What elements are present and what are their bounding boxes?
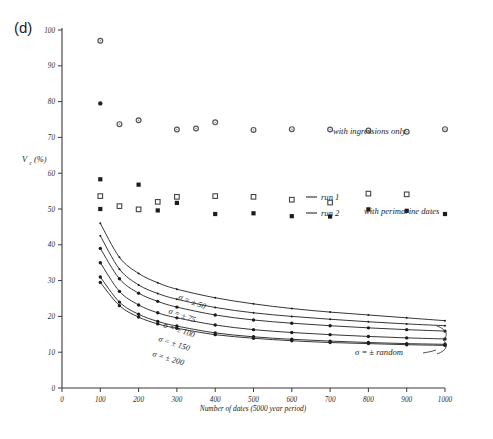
x-tick-label: 900 (401, 396, 412, 404)
point-ingressions-run1-core (444, 128, 445, 129)
annotation-with-ingressions-only: with ingressions only (333, 126, 406, 136)
point-sigma-100-curve (290, 322, 293, 325)
point-sigma-50-curve (99, 222, 101, 224)
point-ingressions-run1-core (329, 129, 330, 130)
point-ingressions-run1-core (215, 122, 216, 123)
figure-panel-d: 0102030405060708090100010020030040050060… (0, 0, 493, 439)
point-perimarine-run1 (366, 191, 371, 196)
point-perimarine-run2 (213, 212, 217, 216)
point-sigma-150-curve (252, 328, 255, 331)
point-ingressions-run1-core (138, 120, 139, 121)
x-tick-label: 1000 (438, 396, 453, 404)
point-sigma-150-curve (156, 311, 159, 314)
point-sigma-50-curve (176, 288, 178, 290)
point-sigma-50-curve (253, 303, 255, 305)
point-ingressions-run1-core (291, 128, 292, 129)
point-sigma-200-curve (118, 300, 121, 303)
point-perimarine-run1 (213, 194, 218, 199)
point-perimarine-run1 (155, 200, 160, 205)
curves (100, 223, 445, 345)
point-sigma-50-curve (118, 256, 120, 258)
point-sigma-random-curve (99, 281, 102, 284)
point-sigma-150-curve (290, 331, 293, 334)
point-perimarine-run2 (251, 211, 255, 215)
point-sigma-random-curve (137, 315, 140, 318)
point-sigma-150-curve (328, 333, 331, 336)
point-sigma-75-curve (406, 323, 408, 325)
curve-sigma-50-curve (100, 223, 445, 320)
series-ingressions-run2 (98, 101, 102, 105)
annotation-sigma-random: σ = ± random (355, 347, 403, 357)
point-ingressions-run2 (98, 101, 102, 105)
y-tick-label: 100 (44, 27, 55, 35)
curve-sigma-150-curve (100, 263, 445, 339)
legend: run 1run 2 (306, 192, 340, 218)
point-ingressions-run1-core (100, 40, 101, 41)
point-sigma-75-curve (138, 284, 140, 286)
point-sigma-50-curve (291, 308, 293, 310)
series-ingressions-run1 (98, 38, 448, 134)
point-perimarine-run1 (136, 207, 141, 212)
point-sigma-150-curve (405, 336, 408, 339)
point-sigma-50-curve (157, 282, 159, 284)
curve-sigma-100-curve (100, 248, 445, 331)
x-tick-label: 100 (95, 396, 106, 404)
point-sigma-random-curve (405, 343, 408, 346)
x-tick-label: 0 (60, 396, 64, 404)
point-sigma-100-curve (367, 326, 370, 329)
series-sigma-100-curve (99, 247, 447, 333)
point-sigma-50-curve (138, 272, 140, 274)
point-perimarine-run1 (290, 197, 295, 202)
point-sigma-100-curve (156, 300, 159, 303)
point-perimarine-run1 (98, 194, 103, 199)
point-sigma-75-curve (118, 268, 120, 270)
x-tick-label: 800 (363, 396, 374, 404)
point-perimarine-run2 (98, 207, 102, 211)
random-brace-leader (423, 350, 436, 353)
y-tick-label: 0 (51, 385, 55, 393)
x-tick-label: 300 (171, 396, 183, 404)
point-ingressions-run1-core (119, 123, 120, 124)
point-sigma-random-curve (214, 333, 217, 336)
point-sigma-200-curve (99, 275, 102, 278)
point-ingressions-run1-core (253, 129, 254, 130)
curve-label-sigma-150: σ = ± 150 (157, 334, 191, 353)
point-sigma-50-curve (406, 317, 408, 319)
point-perimarine-run1 (117, 204, 122, 209)
panel-label: (d) (14, 19, 32, 36)
x-axis-title: Number of dates (5000 year period) (199, 404, 307, 413)
point-sigma-50-curve (367, 314, 369, 316)
point-perimarine-run1 (404, 192, 409, 197)
point-sigma-150-curve (118, 290, 121, 293)
y-axis-title-subscript: c (30, 160, 33, 166)
point-sigma-100-curve (137, 291, 140, 294)
point-sigma-75-curve (329, 318, 331, 320)
y-tick-label: 50 (48, 206, 56, 214)
point-perimarine-run2 (290, 214, 294, 218)
point-perimarine-run2 (98, 177, 102, 181)
x-tick-label: 700 (325, 396, 336, 404)
point-sigma-75-curve (214, 306, 216, 308)
x-tick-label: 500 (248, 396, 259, 404)
x-tick-label: 200 (133, 396, 144, 404)
point-sigma-100-curve (99, 247, 102, 250)
point-sigma-150-curve (99, 261, 102, 264)
x-tick-label: 600 (286, 396, 297, 404)
point-ingressions-run1-core (406, 131, 407, 132)
annotation-with-perimarine-dates: with perimarine dates (364, 206, 440, 216)
point-sigma-150-curve (137, 303, 140, 306)
y-tick-label: 60 (48, 170, 56, 178)
point-sigma-150-curve (367, 335, 370, 338)
legend-label-run-1: run 1 (321, 192, 339, 202)
y-tick-label: 80 (48, 98, 56, 106)
y-tick-label: 10 (48, 349, 56, 357)
point-sigma-random-curve (156, 322, 159, 325)
chart-svg: 0102030405060708090100010020030040050060… (0, 0, 493, 439)
curve-sigma-random-curve (100, 282, 445, 345)
point-sigma-50-curve (214, 297, 216, 299)
y-tick-label: 40 (48, 241, 56, 249)
point-sigma-random-curve (290, 339, 293, 342)
point-sigma-100-curve (328, 324, 331, 327)
x-tick-label: 400 (210, 396, 221, 404)
y-tick-label: 70 (48, 134, 56, 142)
